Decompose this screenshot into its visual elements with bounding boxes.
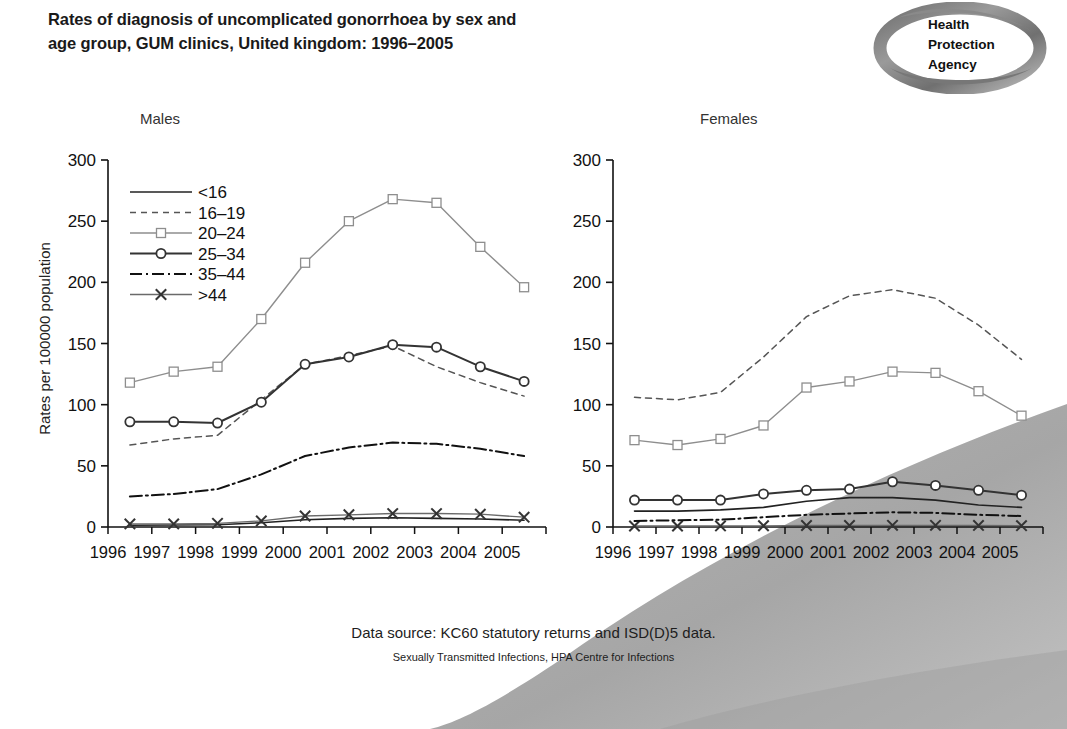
svg-text:2004: 2004: [440, 543, 477, 560]
legend-label: 20–24: [198, 224, 245, 243]
legend-label: 25–34: [198, 245, 245, 264]
data-source-text: Data source: KC60 statutory returns and …: [0, 624, 1067, 641]
svg-text:1997: 1997: [133, 543, 170, 560]
svg-text:2000: 2000: [767, 543, 804, 560]
svg-text:2001: 2001: [309, 543, 346, 560]
hpa-logo-text: Health Protection Agency: [928, 15, 1048, 75]
svg-text:250: 250: [68, 212, 96, 231]
males-chart: 0501001502002503001996199719981999200020…: [0, 140, 560, 560]
page-title-line1: Rates of diagnosis of uncomplicated gono…: [48, 8, 668, 32]
legend-label: 16–19: [198, 204, 245, 223]
hpa-logo-line3: Agency: [928, 55, 1048, 75]
page-title: Rates of diagnosis of uncomplicated gono…: [48, 8, 668, 56]
svg-text:1999: 1999: [221, 543, 258, 560]
svg-text:1998: 1998: [177, 543, 214, 560]
svg-text:100: 100: [68, 396, 96, 415]
svg-text:200: 200: [68, 273, 96, 292]
svg-text:300: 300: [68, 151, 96, 170]
svg-text:50: 50: [582, 457, 601, 476]
svg-text:150: 150: [573, 335, 601, 354]
svg-text:1999: 1999: [724, 543, 761, 560]
svg-text:0: 0: [87, 518, 96, 537]
hpa-logo-line1: Health: [928, 15, 1048, 35]
legend-label: >44: [198, 286, 227, 305]
credit-text: Sexually Transmitted Infections, HPA Cen…: [0, 651, 1067, 663]
svg-text:0: 0: [592, 518, 601, 537]
svg-text:2003: 2003: [396, 543, 433, 560]
svg-text:2004: 2004: [939, 543, 976, 560]
svg-text:2002: 2002: [853, 543, 890, 560]
legend-label: <16: [198, 183, 227, 202]
hpa-logo: Health Protection Agency: [860, 2, 1060, 94]
svg-text:200: 200: [573, 273, 601, 292]
svg-text:2003: 2003: [896, 543, 933, 560]
males-panel-title: Males: [140, 110, 180, 127]
svg-text:300: 300: [573, 151, 601, 170]
females-chart: 0501001502002503001996199719981999200020…: [520, 140, 1067, 560]
svg-text:2005: 2005: [484, 543, 521, 560]
svg-text:1998: 1998: [681, 543, 718, 560]
svg-text:2001: 2001: [810, 543, 847, 560]
svg-text:1996: 1996: [595, 543, 632, 560]
svg-text:2005: 2005: [982, 543, 1019, 560]
females-panel-title: Females: [700, 110, 758, 127]
legend-label: 35–44: [198, 265, 245, 284]
svg-text:2002: 2002: [352, 543, 389, 560]
svg-text:1996: 1996: [90, 543, 127, 560]
hpa-logo-line2: Protection: [928, 35, 1048, 55]
svg-text:2000: 2000: [265, 543, 302, 560]
svg-text:150: 150: [68, 335, 96, 354]
svg-text:100: 100: [573, 396, 601, 415]
page-title-line2: age group, GUM clinics, United kingdom: …: [48, 32, 668, 56]
svg-text:50: 50: [77, 457, 96, 476]
svg-text:250: 250: [573, 212, 601, 231]
svg-text:1997: 1997: [638, 543, 675, 560]
